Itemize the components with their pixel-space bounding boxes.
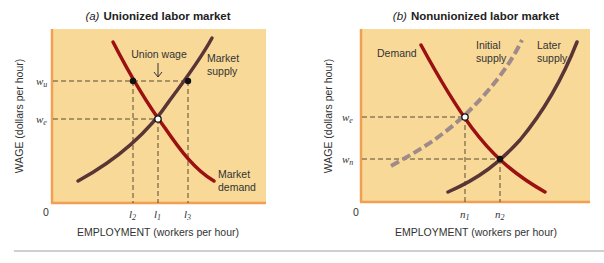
tick-l1: l1 xyxy=(154,208,161,222)
y-axis-label: WAGE (dollars per hour) xyxy=(13,59,25,174)
y-axis-label-b: WAGE (dollars per hour) xyxy=(322,59,334,174)
supply-at-union-wage-point xyxy=(185,78,191,84)
figure: (a)Unionized labor market Union wage Mar… xyxy=(0,0,604,263)
demand-at-union-wage-point xyxy=(130,78,136,84)
tick-n1: n1 xyxy=(460,208,470,222)
tick-wn: wn xyxy=(342,153,353,167)
tick-we-b: we xyxy=(342,111,353,125)
x-axis-label-b: EMPLOYMENT (workers per hour) xyxy=(395,226,557,238)
panel-a: (a)Unionized labor market Union wage Mar… xyxy=(13,10,266,238)
tick-l3: l3 xyxy=(184,208,191,222)
tick-l2: l2 xyxy=(129,208,136,222)
x-axis-label: EMPLOYMENT (workers per hour) xyxy=(77,226,239,238)
market-supply-label: Marketsupply xyxy=(207,52,239,77)
tick-wu: wu xyxy=(36,75,47,89)
origin-label-b: 0 xyxy=(353,206,359,218)
later-equilibrium-point xyxy=(497,156,503,162)
tick-n2: n2 xyxy=(495,208,505,222)
panel-b: (b)Nonunionized labor market Demand Init… xyxy=(322,10,590,238)
initial-equilibrium-point xyxy=(462,114,468,120)
panel-b-title: (b)Nonunionized labor market xyxy=(393,10,559,22)
equilibrium-point xyxy=(155,116,161,122)
union-wage-label: Union wage xyxy=(131,48,187,60)
demand-label: Demand xyxy=(377,47,417,59)
tick-we: we xyxy=(36,113,47,127)
panel-a-title: (a)Unionized labor market xyxy=(85,10,230,22)
origin-label: 0 xyxy=(43,206,49,218)
